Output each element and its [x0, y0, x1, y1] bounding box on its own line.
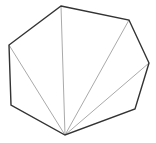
diagonal-v4-v1 [65, 20, 129, 135]
diagonal-v4-v0 [61, 6, 65, 135]
polygon-diagram [0, 0, 156, 143]
diagonal-v4-v6 [9, 45, 65, 135]
heptagon-outline [9, 6, 149, 135]
diagonal-v4-v2 [65, 63, 149, 135]
